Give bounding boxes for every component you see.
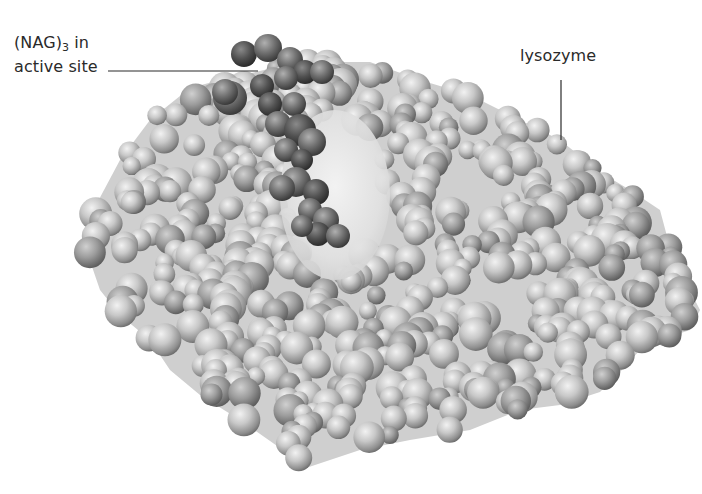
protein-atom-sphere xyxy=(483,252,515,284)
protein-atom-sphere xyxy=(358,64,382,88)
lysozyme-label: lysozyme xyxy=(520,46,596,65)
protein-atom-sphere xyxy=(105,295,137,327)
protein-atom-sphere xyxy=(121,192,143,214)
protein-atom-sphere xyxy=(538,322,558,342)
protein-atom-sphere xyxy=(228,403,261,436)
protein-atom-sphere xyxy=(555,375,589,409)
protein-atom-sphere xyxy=(367,286,386,305)
protein-atom-sphere xyxy=(74,236,106,268)
nag3-label-suffix: in xyxy=(69,33,89,52)
protein-atom-sphere xyxy=(198,105,219,126)
protein-atom-sphere xyxy=(459,107,487,135)
protein-atom-sphere xyxy=(577,193,603,219)
protein-atom-sphere xyxy=(285,444,312,471)
protein-atom-sphere xyxy=(183,134,205,156)
ligand-atom-sphere xyxy=(326,224,350,248)
protein-atom-sphere xyxy=(507,399,527,419)
protein-atom-sphere xyxy=(353,421,385,453)
protein-atom-sphere xyxy=(403,220,428,245)
ligand-atom-sphere xyxy=(310,60,334,84)
protein-atom-sphere xyxy=(148,323,181,356)
protein-atom-sphere xyxy=(150,124,179,153)
protein-atom-sphere xyxy=(524,342,544,362)
nag3-label-prefix: (NAG) xyxy=(14,33,62,52)
protein-atom-sphere xyxy=(593,367,616,390)
protein-atom-sphere xyxy=(147,106,167,126)
ligand-atom-sphere xyxy=(282,92,306,116)
protein-atom-sphere xyxy=(327,416,351,440)
protein-atom-sphere xyxy=(394,262,413,281)
protein-atom-sphere xyxy=(359,302,377,320)
protein-atom-sphere xyxy=(467,377,499,409)
ligand-atom-sphere xyxy=(291,215,313,237)
protein-atom-sphere xyxy=(657,323,681,347)
protein-atom-sphere xyxy=(112,237,138,263)
lysozyme-space-filling-model xyxy=(0,0,702,494)
ligand-atom-sphere xyxy=(274,66,298,90)
ligand-atom-sphere xyxy=(231,41,257,67)
protein-atoms xyxy=(74,49,698,471)
ligand-atom-sphere xyxy=(212,79,238,105)
protein-atom-sphere xyxy=(547,134,567,154)
nag3-label-line2: active site xyxy=(14,57,98,76)
protein-atom-sphere xyxy=(201,384,223,406)
nag3-label: (NAG)3 in active site xyxy=(14,33,98,76)
protein-atom-sphere xyxy=(493,165,514,186)
ligand-atom-sphere xyxy=(269,175,295,201)
protein-atom-sphere xyxy=(599,254,626,281)
protein-atom-sphere xyxy=(629,282,655,308)
protein-atom-sphere xyxy=(437,417,463,443)
protein-atom-sphere xyxy=(165,104,188,127)
protein-atom-sphere xyxy=(442,213,465,236)
